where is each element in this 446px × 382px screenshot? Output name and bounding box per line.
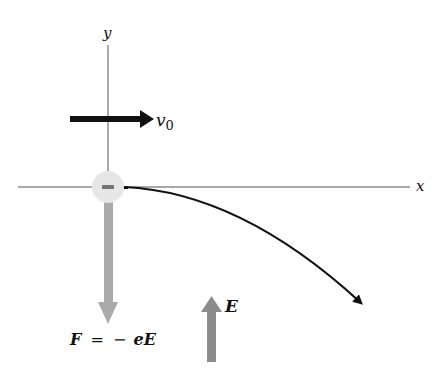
trajectory-curve [124, 187, 360, 302]
diagram-svg: y x v0 F = − eE [0, 0, 446, 382]
force-label: F = − eE [69, 330, 157, 349]
field-arrow-icon [201, 296, 222, 362]
electron-icon [92, 171, 124, 203]
x-axis-label: x [416, 177, 425, 195]
force-arrow-icon [98, 200, 118, 324]
velocity-arrow-icon [70, 110, 154, 128]
field-label: E [224, 296, 239, 316]
diagram-canvas: y x v0 F = − eE [0, 0, 446, 382]
velocity-label: v0 [156, 110, 174, 133]
y-axis-label: y [102, 24, 112, 42]
